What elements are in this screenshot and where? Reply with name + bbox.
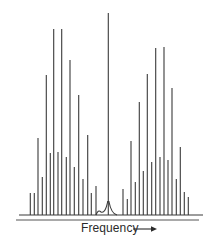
arrow-right-icon bbox=[151, 226, 157, 231]
center-peak-wings bbox=[96, 201, 117, 215]
spectrum-diagram bbox=[0, 0, 212, 250]
spectral-lines bbox=[30, 13, 188, 215]
frequency-axis-label: Frequency bbox=[81, 221, 139, 235]
